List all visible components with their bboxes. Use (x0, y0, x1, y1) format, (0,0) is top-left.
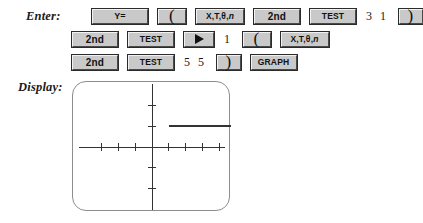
second-key-label: 2nd (86, 57, 104, 68)
second-key[interactable]: 2nd (72, 55, 118, 70)
keystroke-row-2: 2nd TEST 1 ( X,T,θ,n (72, 31, 329, 47)
second-key[interactable]: 2nd (254, 9, 300, 24)
test-key[interactable]: TEST (128, 55, 174, 70)
typed-value-3-1: 3 1 (366, 9, 389, 24)
second-key-label: 2nd (268, 11, 286, 22)
left-paren-key[interactable]: ( (158, 9, 186, 24)
second-key-label: 2nd (86, 34, 104, 45)
right-paren-key[interactable]: ) (399, 9, 423, 24)
calculator-display-screen (72, 81, 230, 211)
right-paren-key-label: ) (408, 7, 414, 24)
graph-plot (73, 82, 231, 212)
axes-group (79, 84, 225, 210)
x-t-theta-n-key-label: X,T,θ,n (206, 11, 234, 21)
enter-label: Enter: (26, 9, 61, 24)
typed-value-5-5: 5 5 (184, 55, 207, 70)
right-arrow-icon (195, 34, 204, 44)
keystroke-row-1: Y= ( X,T,θ,n 2nd TEST 3 1 ) (92, 8, 423, 24)
y-equals-key-label: Y= (114, 11, 126, 21)
y-equals-key[interactable]: Y= (92, 9, 148, 24)
test-key[interactable]: TEST (310, 9, 356, 24)
x-t-theta-n-key[interactable]: X,T,θ,n (196, 9, 244, 24)
x-t-theta-n-key[interactable]: X,T,θ,n (281, 32, 329, 47)
right-arrow-key[interactable] (184, 32, 214, 47)
left-paren-key-label: ( (254, 30, 260, 47)
graph-key[interactable]: GRAPH (251, 55, 297, 70)
test-key-label: TEST (140, 57, 163, 67)
x-t-theta-n-key-label: X,T,θ,n (290, 34, 318, 44)
second-key[interactable]: 2nd (72, 32, 118, 47)
left-paren-key[interactable]: ( (243, 32, 271, 47)
keystroke-row-3: 2nd TEST 5 5 ) GRAPH (72, 54, 297, 70)
typed-value-1: 1 (224, 32, 233, 47)
left-paren-key-label: ( (169, 7, 175, 24)
display-label: Display: (18, 80, 63, 95)
test-key[interactable]: TEST (128, 32, 174, 47)
graph-key-label: GRAPH (258, 57, 290, 67)
test-key-label: TEST (140, 34, 163, 44)
test-key-label: TEST (322, 11, 345, 21)
right-paren-key[interactable]: ) (217, 55, 241, 70)
right-paren-key-label: ) (226, 53, 232, 70)
